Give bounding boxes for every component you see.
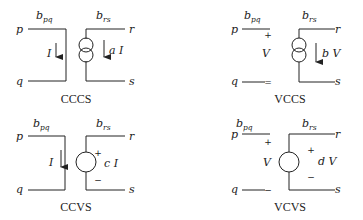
node-p: p (231, 128, 238, 141)
branch-rs-label: brs (302, 117, 317, 132)
branch-rs-label: brs (302, 9, 317, 24)
output-plus-sign: + (94, 148, 102, 158)
branch-rs-label: brs (96, 9, 111, 24)
node-s: s (129, 183, 135, 196)
node-r: r (129, 130, 135, 143)
branch-pq-label: bpq (33, 117, 50, 132)
output-plus-sign: + (307, 145, 315, 155)
branch-pq-label: bpq (244, 9, 261, 24)
voltage-source-circle-icon (279, 152, 299, 172)
panel-ccvs: bpq brs p q r s I + − c I CCVS (16, 117, 135, 214)
panel-vccs: bpq brs p q r s + V = b V VCCS (231, 9, 342, 106)
output-gain-label: c I (104, 157, 119, 170)
node-q: q (16, 75, 23, 88)
control-minus-sign: = (264, 77, 272, 87)
output-gain-label: b V (322, 47, 342, 60)
branch-rs-label: brs (96, 117, 111, 132)
node-r: r (335, 23, 341, 36)
panel-vcvs: bpq brs p q r s + V − + − d V VCVS (231, 117, 341, 214)
output-gain-label: d V (318, 155, 338, 168)
current-source-circle-icon (79, 48, 93, 62)
node-p: p (16, 23, 23, 36)
control-current-label: I (46, 47, 52, 60)
node-p: p (16, 130, 23, 143)
control-plus-sign: + (264, 30, 272, 40)
control-voltage-label: V (262, 47, 271, 60)
control-plus-sign: + (264, 137, 272, 147)
control-current-label: I (48, 156, 54, 169)
node-r: r (335, 128, 341, 141)
current-source-circle-icon (292, 48, 306, 62)
control-branch-wire (28, 136, 65, 190)
panel-cccs: bpq brs p q r s I a I CCCS (16, 9, 135, 106)
caption-vcvs: VCVS (274, 200, 306, 214)
output-gain-label: a I (109, 44, 124, 57)
output-minus-sign: − (307, 172, 315, 182)
node-s: s (129, 75, 135, 88)
caption-cccs: CCCS (61, 92, 92, 106)
node-q: q (231, 183, 238, 196)
control-minus-sign: − (264, 185, 272, 195)
branch-pq-label: bpq (236, 117, 253, 132)
caption-ccvs: CCVS (60, 200, 91, 214)
node-r: r (129, 23, 135, 36)
node-q: q (231, 75, 238, 88)
control-voltage-label: V (263, 156, 272, 169)
controlled-sources-diagram: bpq brs p q r s I a I CCCS bpq brs p q r… (0, 0, 363, 220)
node-s: s (335, 183, 341, 196)
node-s: s (335, 75, 341, 88)
node-q: q (16, 183, 23, 196)
node-p: p (231, 23, 238, 36)
branch-pq-label: bpq (36, 9, 53, 24)
voltage-source-circle-icon (76, 152, 96, 172)
caption-vccs: VCCS (274, 92, 305, 106)
output-minus-sign: − (94, 175, 102, 185)
